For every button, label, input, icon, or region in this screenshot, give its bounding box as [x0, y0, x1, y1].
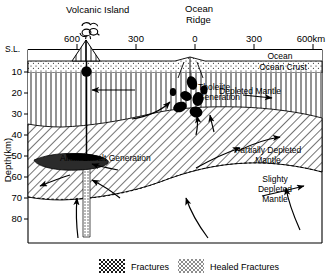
legend-label-fractures: Fractures [131, 262, 170, 272]
x-axis-ticks [77, 44, 313, 50]
label-tholeiite-line2: Generation [198, 92, 240, 102]
label-tholeiite-line1: Tholeiite [198, 82, 230, 92]
legend: Fractures Healed Fractures [99, 259, 280, 273]
label-volcanic-island: Volcanic Island [66, 4, 129, 15]
label-ocean-ridge-line1: Ocean [185, 3, 213, 14]
y-tick-3: 40 [11, 129, 22, 140]
eruption-cloud-icon [80, 23, 99, 40]
y-tick-1: 20 [11, 87, 22, 98]
y-axis-ticks [24, 72, 28, 219]
figure-root: Volcanic Island Ocean Ridge S.L. 600 300… [0, 0, 332, 280]
x-tick-3: 300 [246, 33, 262, 44]
label-slightly-depleted-line1: Slighty [262, 174, 288, 184]
y-tick-4: 50 [11, 150, 22, 161]
label-ocean: Ocean [267, 51, 292, 61]
y-tick-5: 60 [11, 171, 22, 182]
x-axis-tick-labels: 600 300 0 300 600km [64, 33, 325, 44]
label-alkali-basalt-generation: Alkali Basalt Generation [60, 153, 151, 163]
y-tick-7: 80 [11, 213, 22, 224]
sea-level-label: S.L. [5, 44, 20, 54]
x-tick-4: 600km [297, 33, 326, 44]
x-tick-1: 300 [128, 33, 144, 44]
y-axis-title: Depth(km) [2, 138, 13, 182]
x-tick-0: 600 [64, 33, 80, 44]
y-tick-2: 30 [11, 108, 22, 119]
y-tick-6: 70 [11, 192, 22, 203]
label-ocean-ridge-line2: Ridge [186, 14, 211, 25]
label-ocean-crust: Ocean Crust [259, 62, 307, 72]
legend-label-healed-fractures: Healed Fractures [210, 262, 280, 272]
x-tick-2: 0 [192, 33, 197, 44]
legend-swatch-healed-fractures [178, 259, 204, 273]
plume-conduit [83, 160, 90, 237]
legend-swatch-fractures [99, 259, 125, 273]
label-partially-depleted-line1: Partially Depleted [235, 145, 302, 155]
y-axis-tick-labels: 10 20 30 40 50 60 70 80 [11, 66, 22, 224]
magma-chamber-dot [81, 66, 91, 76]
y-tick-0: 10 [11, 66, 22, 77]
